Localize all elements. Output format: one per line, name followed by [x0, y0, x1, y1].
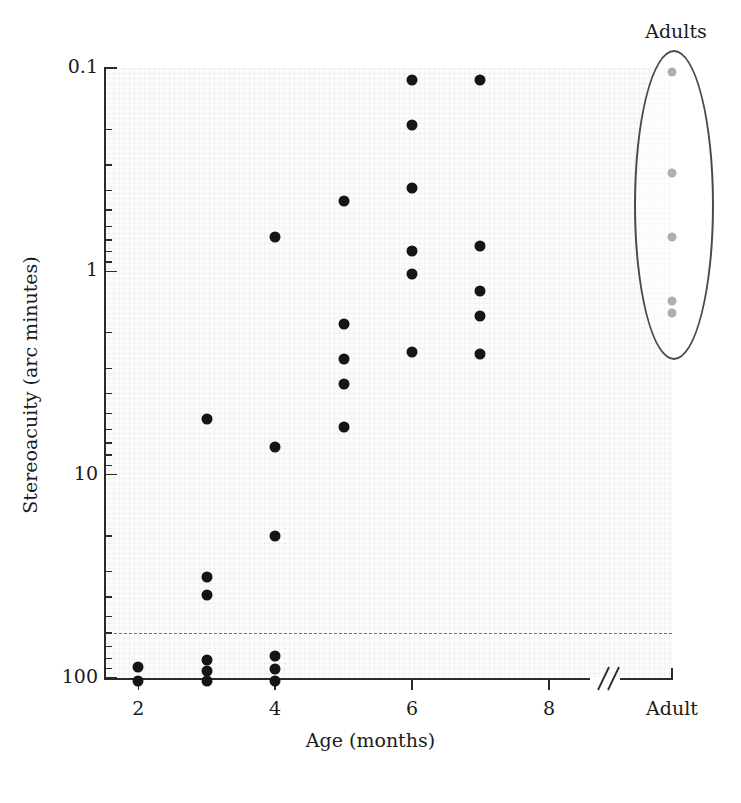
data-point	[201, 675, 212, 686]
y-tick-minor	[104, 226, 112, 227]
plot-area-background	[104, 68, 672, 678]
axis-break-icon	[592, 663, 626, 695]
y-tick-label: 10	[38, 464, 98, 483]
adults-group-label: Adults	[626, 20, 726, 42]
y-tick-minor	[104, 251, 112, 252]
data-point	[338, 195, 349, 206]
y-tick-minor	[104, 164, 112, 165]
y-tick-minor	[104, 190, 112, 191]
data-point	[201, 572, 212, 583]
y-tick-minor	[104, 616, 112, 617]
y-tick-minor	[104, 413, 112, 414]
data-point	[475, 348, 486, 359]
stereoacuity-scatter-figure: 0.1110100 2468Adult Adults Age (months) …	[0, 0, 741, 803]
y-tick-label: 100	[38, 667, 98, 686]
criterion-reference-line	[104, 633, 672, 634]
data-point	[475, 240, 486, 251]
y-axis-line	[104, 67, 106, 679]
y-axis-tick-labels: 0.1110100	[32, 0, 98, 803]
x-axis-line-left	[104, 678, 590, 680]
data-point	[338, 354, 349, 365]
data-point	[270, 441, 281, 452]
y-tick-minor	[104, 632, 112, 633]
x-tick-label: 2	[132, 697, 144, 719]
data-point	[270, 676, 281, 687]
data-point	[338, 379, 349, 390]
data-point	[270, 663, 281, 674]
y-tick-label: 1	[38, 260, 98, 279]
y-tick-minor	[104, 646, 112, 647]
x-tick-label: 6	[406, 697, 418, 719]
data-point	[407, 245, 418, 256]
data-point	[133, 661, 144, 672]
y-tick-minor	[104, 454, 112, 455]
y-tick-major	[104, 474, 117, 475]
y-tick-minor	[104, 535, 112, 536]
y-tick-minor	[104, 261, 112, 262]
x-axis-title: Age (months)	[0, 729, 741, 751]
data-point	[407, 183, 418, 194]
y-axis-title: Stereoacuity (arc minutes)	[19, 220, 41, 550]
y-tick-minor	[104, 209, 112, 210]
x-tick	[671, 668, 672, 679]
y-tick-minor	[104, 596, 112, 597]
data-point	[201, 413, 212, 424]
x-tick-label: 4	[269, 697, 281, 719]
y-tick-minor	[104, 368, 112, 369]
y-tick-major	[104, 271, 117, 272]
data-point	[475, 75, 486, 86]
x-tick-label: Adult	[646, 697, 698, 719]
data-point	[201, 589, 212, 600]
data-point	[338, 421, 349, 432]
data-point	[270, 530, 281, 541]
data-point	[475, 286, 486, 297]
y-tick-minor	[104, 442, 112, 443]
y-tick-minor	[104, 658, 112, 659]
y-tick-major	[104, 67, 117, 68]
data-point	[407, 268, 418, 279]
data-point	[133, 676, 144, 687]
x-axis-line-right	[620, 678, 673, 680]
data-point	[407, 347, 418, 358]
data-point	[270, 232, 281, 243]
y-tick-minor	[104, 668, 112, 669]
y-tick-minor	[104, 129, 112, 130]
data-point	[270, 651, 281, 662]
data-point	[475, 310, 486, 321]
y-tick-major	[104, 677, 117, 678]
data-point	[338, 319, 349, 330]
data-point	[407, 75, 418, 86]
y-tick-minor	[104, 429, 112, 430]
y-tick-minor	[104, 393, 112, 394]
x-tick	[548, 679, 549, 690]
y-tick-minor	[104, 571, 112, 572]
x-tick	[411, 679, 412, 690]
y-tick-minor	[104, 332, 112, 333]
y-tick-minor	[104, 465, 112, 466]
y-tick-minor	[104, 239, 112, 240]
adults-group-ellipse	[634, 50, 714, 360]
x-tick-label: 8	[543, 697, 555, 719]
data-point	[407, 119, 418, 130]
y-tick-label: 0.1	[38, 57, 98, 76]
